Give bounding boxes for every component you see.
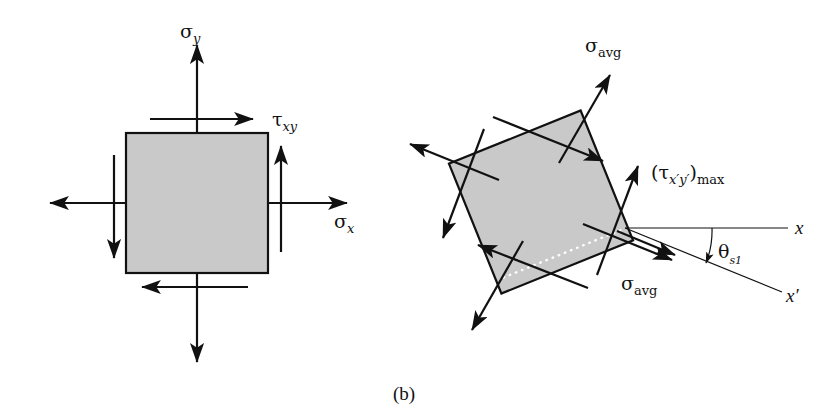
sigma-y-symbol: σ xyxy=(180,20,193,42)
sigma-avg-bottom-symbol: σ xyxy=(621,272,634,294)
sigma-avg-bottom-subscript: avg xyxy=(634,283,657,298)
tau-xy-subscript: xy xyxy=(283,119,298,134)
sigma-avg-top-symbol: σ xyxy=(585,34,598,56)
tau-max-post-subscript: max xyxy=(697,172,725,187)
x-axis-label: x xyxy=(794,217,804,238)
sigma-y-subscript: y xyxy=(192,31,201,46)
tau-max-subscript: x′y′ xyxy=(669,172,690,187)
original-element-square xyxy=(126,133,268,273)
sigma-x-subscript: x xyxy=(347,221,355,236)
sigma-x-symbol: σ xyxy=(334,210,347,232)
figure-root: σy σx τxy xyxy=(0,0,827,414)
theta-s1-symbol: θ xyxy=(718,240,729,262)
x-prime-axis-label: x′ xyxy=(785,285,799,306)
theta-s1-subscript: s1 xyxy=(729,254,742,267)
figure-background xyxy=(0,0,827,414)
tau-xy-symbol: τ xyxy=(272,108,283,130)
figure-caption: (b) xyxy=(393,383,415,405)
tau-max-symbol: τ xyxy=(658,161,669,183)
sigma-avg-top-subscript: avg xyxy=(598,45,621,60)
tau-max-close-paren: ) xyxy=(690,161,697,183)
stress-element-figure: σy σx τxy xyxy=(0,0,827,414)
tau-max-open-paren: ( xyxy=(651,161,658,183)
